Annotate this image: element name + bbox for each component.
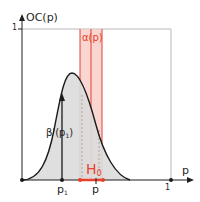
one-dot [169, 178, 173, 182]
h0-bar-left-dot [78, 178, 82, 182]
oc-curve-diagram: OC(p) 1 α(p) β'(p1) H0 p1 p 1 p [0, 0, 200, 202]
p-label: p [92, 184, 99, 195]
beta-label-main: β'(p [46, 127, 65, 138]
curve-area [22, 73, 130, 180]
h0-bar-right-dot [101, 178, 105, 182]
y-axis-label: OC(p) [26, 12, 58, 23]
beta-label: β'(p1) [46, 128, 73, 139]
p1-dot [60, 178, 64, 182]
p1-label-main: p [57, 183, 64, 196]
origin-dot [20, 178, 24, 182]
p1-label: p1 [57, 184, 68, 196]
y-tick-one-label: 1 [12, 24, 17, 32]
alpha-label: α(p) [82, 33, 103, 43]
p1-label-sub: 1 [64, 189, 68, 196]
x-tick-one-label: 1 [165, 184, 170, 192]
x-axis-arrow-icon [187, 177, 194, 183]
h0-label: H0 [86, 162, 102, 178]
x-axis-label: p [182, 165, 189, 176]
beta-label-close: ) [69, 127, 73, 138]
y-axis-arrow-icon [19, 14, 25, 21]
h0-label-main: H [86, 161, 97, 177]
h0-label-sub: 0 [97, 169, 102, 178]
